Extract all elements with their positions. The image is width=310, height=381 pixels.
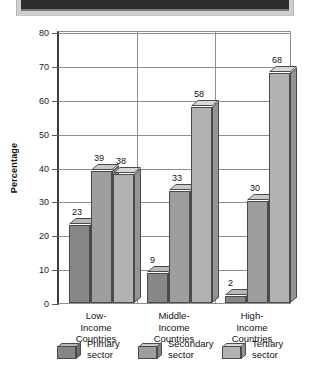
bar-group-3: 23068 — [215, 32, 293, 303]
bar-front-face — [69, 225, 90, 303]
y-tick-0 — [52, 304, 59, 305]
plot-area: 010203040506070802339389335823068 — [57, 31, 291, 304]
category-label-line: Income — [51, 322, 141, 334]
bar-tertiary-3 — [269, 73, 290, 303]
bar-front-face — [225, 296, 246, 303]
bar-primary-3 — [225, 296, 246, 303]
bar-group-1: 233938 — [59, 32, 137, 303]
y-tick-20 — [52, 236, 59, 237]
legend-label-line1: Tertiary — [252, 338, 283, 349]
y-tick-80 — [52, 33, 59, 34]
legend-label-line1: Primary — [87, 338, 120, 349]
image-strip-dark-band — [21, 0, 289, 11]
bar-front-face — [113, 174, 134, 303]
bar-front-face — [169, 191, 190, 303]
bar-value-label: 58 — [194, 90, 204, 99]
legend-label-line2: sector — [87, 349, 120, 360]
category-label-line: Middle- — [129, 310, 219, 322]
category-label-line: Income — [129, 322, 219, 334]
legend-swatch-cube-icon — [57, 343, 80, 359]
legend-label-line2: sector — [252, 349, 283, 360]
y-tick-60 — [52, 101, 59, 102]
legend-cube-face-face — [138, 346, 157, 359]
y-tick-50 — [52, 135, 59, 136]
bar-group-2: 93358 — [137, 32, 215, 303]
legend-item-primary[interactable]: Primarysector — [57, 338, 120, 360]
y-axis-label-10: 10 — [39, 266, 49, 275]
y-axis-label-20: 20 — [39, 232, 49, 241]
y-axis-label-70: 70 — [39, 62, 49, 71]
chart-legend: PrimarysectorSecondarysectorTertiarysect… — [0, 338, 310, 368]
bar-front-face — [147, 273, 168, 303]
legend-swatch-cube-icon — [222, 343, 245, 359]
bar-primary-1 — [69, 225, 90, 303]
bar-value-label: 39 — [94, 154, 104, 163]
y-axis-label-30: 30 — [39, 198, 49, 207]
y-axis-label-0: 0 — [44, 300, 49, 309]
bar-value-label: 38 — [116, 157, 126, 166]
bar-value-label: 2 — [228, 279, 233, 288]
legend-cube-face-face — [222, 346, 241, 359]
y-axis-label-60: 60 — [39, 96, 49, 105]
y-axis-label-50: 50 — [39, 130, 49, 139]
y-axis-label-80: 80 — [39, 29, 49, 38]
bar-value-label: 30 — [250, 184, 260, 193]
bar-value-label: 68 — [272, 56, 282, 65]
legend-label: Secondarysector — [168, 338, 213, 360]
legend-label-line2: sector — [168, 349, 213, 360]
legend-item-secondary[interactable]: Secondarysector — [138, 338, 213, 360]
bar-front-face — [91, 171, 112, 303]
y-tick-30 — [52, 202, 59, 203]
bar-tertiary-2 — [191, 107, 212, 303]
legend-swatch-cube-icon — [138, 343, 161, 359]
legend-item-tertiary[interactable]: Tertiarysector — [222, 338, 283, 360]
bar-secondary-1 — [91, 171, 112, 303]
y-tick-40 — [52, 169, 59, 170]
bar-side-face — [290, 67, 297, 303]
bar-tertiary-1 — [113, 174, 134, 303]
cropped-image-strip — [16, 0, 294, 16]
bar-front-face — [247, 201, 268, 303]
bar-front-face — [269, 73, 290, 303]
legend-cube-face-face — [57, 346, 76, 359]
bar-value-label: 33 — [172, 174, 182, 183]
bar-value-label: 9 — [150, 256, 155, 265]
category-label-line: High- — [207, 310, 297, 322]
category-label-line: Income — [207, 322, 297, 334]
bar-secondary-3 — [247, 201, 268, 303]
y-tick-70 — [52, 67, 59, 68]
y-axis-title: Percentage — [9, 143, 19, 194]
y-tick-10 — [52, 270, 59, 271]
legend-label: Tertiarysector — [252, 338, 283, 360]
legend-label-line1: Secondary — [168, 338, 213, 349]
bar-value-label: 23 — [72, 208, 82, 217]
bar-front-face — [191, 107, 212, 303]
bar-secondary-2 — [169, 191, 190, 303]
legend-label: Primarysector — [87, 338, 120, 360]
bar-primary-2 — [147, 273, 168, 303]
y-axis-label-40: 40 — [39, 164, 49, 173]
grouped-bar-chart: Percentage 01020304050607080233938933582… — [0, 16, 310, 381]
category-label-line: Low- — [51, 310, 141, 322]
